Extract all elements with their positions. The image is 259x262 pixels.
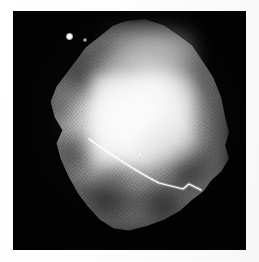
localization-wire-glow — [89, 139, 201, 190]
radiograph-plate — [13, 11, 246, 250]
screenshot-root — [0, 0, 259, 262]
tissue-mass — [13, 11, 246, 250]
radiograph-plate-inner — [13, 11, 246, 250]
localization-wire-core — [89, 139, 201, 190]
localization-wire — [13, 11, 246, 250]
